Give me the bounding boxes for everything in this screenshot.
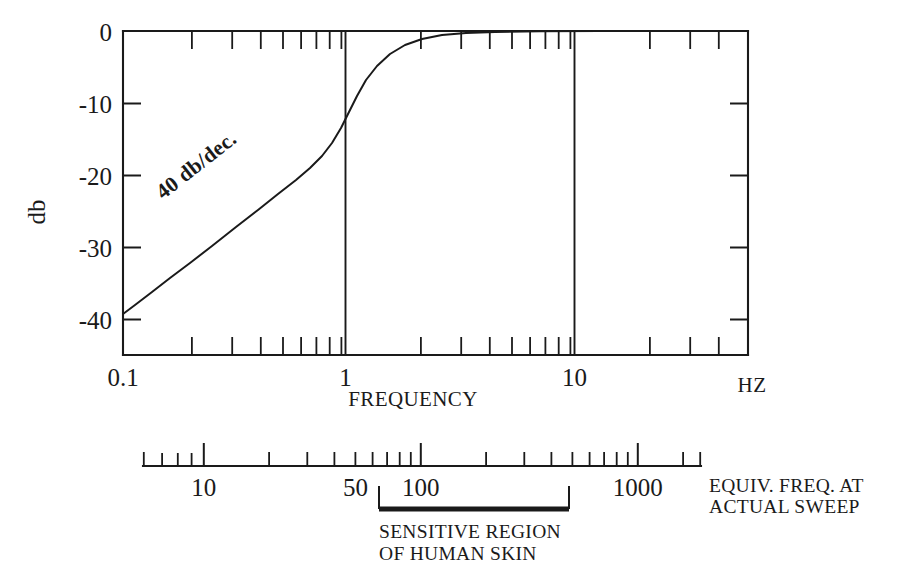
y-tick-label-minus20: -20 xyxy=(79,163,112,190)
slope-annotation: 40 db/dec. xyxy=(151,126,241,204)
secondary-axis-caption-line2: ACTUAL SWEEP xyxy=(709,496,860,517)
secondary-frequency-axis: 10 50 100 1000 EQUIV. FREQ. AT ACTUAL SW… xyxy=(143,443,864,517)
secondary-tick-label-1000: 1000 xyxy=(613,474,663,501)
secondary-tick-label-100: 100 xyxy=(402,474,440,501)
x-axis-ticks-bottom xyxy=(192,337,719,355)
secondary-tick-label-50: 50 xyxy=(343,474,368,501)
y-tick-label-minus40: -40 xyxy=(79,307,112,334)
secondary-axis-caption-line1: EQUIV. FREQ. AT xyxy=(709,475,864,496)
y-tick-label-0: 0 xyxy=(100,19,113,46)
y-axis-ticks-left xyxy=(123,104,141,320)
x-axis-title: FREQUENCY xyxy=(348,387,478,411)
plot-frame xyxy=(123,31,748,355)
y-axis-ticks-right xyxy=(730,104,748,320)
x-tick-label-10: 10 xyxy=(562,364,587,391)
y-tick-label-minus30: -30 xyxy=(79,235,112,262)
x-tick-label-0-1: 0.1 xyxy=(107,364,138,391)
y-tick-label-minus10: -10 xyxy=(79,91,112,118)
x-axis-units-hz: HZ xyxy=(738,373,767,397)
figure-svg: 40 db/dec. 0 -10 -20 -30 -40 db 0.1 1 10… xyxy=(0,0,916,575)
sensitive-region-caption-line1: SENSITIVE REGION xyxy=(379,521,561,542)
bode-plot-figure: 40 db/dec. 0 -10 -20 -30 -40 db 0.1 1 10… xyxy=(0,0,916,575)
response-curve xyxy=(123,31,748,314)
sensitive-region-caption-line2: OF HUMAN SKIN xyxy=(379,543,537,564)
vertical-marker-lines xyxy=(346,31,575,355)
secondary-tick-label-10: 10 xyxy=(191,474,216,501)
y-axis-title: db xyxy=(23,200,50,225)
